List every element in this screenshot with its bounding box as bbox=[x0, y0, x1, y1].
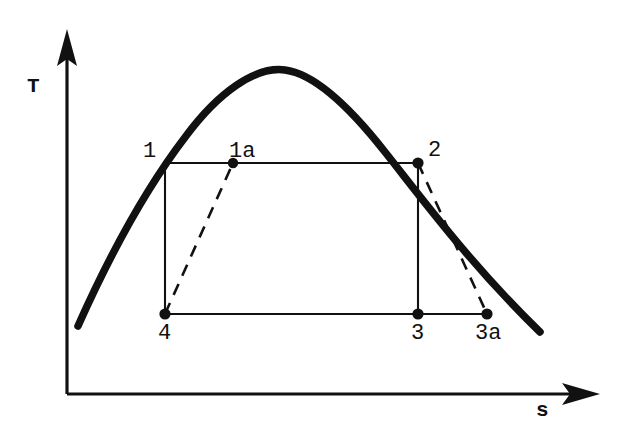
state-label-4: 4 bbox=[158, 323, 171, 345]
state-point-2-marker bbox=[412, 157, 423, 168]
temperature-axis-label: T bbox=[27, 76, 40, 97]
state-point-3a-marker bbox=[481, 308, 492, 319]
saturation-dome-group bbox=[78, 70, 540, 332]
dashed-process-4-to-1a bbox=[165, 163, 233, 314]
state-point-3-marker bbox=[412, 308, 423, 319]
state-label-2: 2 bbox=[428, 140, 441, 162]
state-label-3: 3 bbox=[411, 323, 424, 345]
state-point-4-marker bbox=[159, 308, 170, 319]
saturation-dome-curve bbox=[78, 70, 540, 332]
state-label-1a: 1a bbox=[229, 141, 255, 163]
state-label-3a: 3a bbox=[475, 323, 501, 345]
axis-group bbox=[57, 29, 600, 405]
ideal-cycle-group bbox=[165, 163, 487, 314]
ts-diagram-figure: T s 1 1a 2 4 3 3a bbox=[0, 0, 623, 446]
state-point-markers bbox=[159, 157, 492, 319]
actual-process-group bbox=[165, 163, 487, 314]
state-label-1: 1 bbox=[143, 141, 156, 163]
ts-diagram-canvas bbox=[0, 0, 623, 446]
entropy-axis-label: s bbox=[536, 400, 549, 421]
